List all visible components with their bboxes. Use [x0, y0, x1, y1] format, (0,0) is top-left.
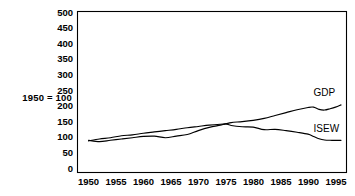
y-tick-label: 400	[57, 38, 73, 49]
x-tick-label: 1995	[325, 176, 347, 187]
series-label-gdp: GDP	[314, 87, 336, 98]
y-tick-label: 250	[57, 85, 73, 96]
y-tick-label: 450	[57, 22, 73, 33]
x-tick-label: 1980	[243, 176, 264, 187]
y-tick-label: 100	[57, 131, 73, 142]
x-tick-label: 1985	[270, 176, 292, 187]
y-tick-label: 200	[57, 100, 73, 111]
x-tick-label: 1990	[298, 176, 319, 187]
plot-area-border	[78, 12, 347, 173]
x-axis-tick-labels: 1950 1955 1960 1965 1970 1975 1980 1985 …	[78, 176, 347, 187]
x-tick-label: 1970	[188, 176, 209, 187]
x-tick-label: 1975	[215, 176, 237, 187]
y-tick-label: 500	[57, 7, 73, 18]
y-tick-label: 300	[57, 69, 73, 80]
x-tick-label: 1950	[78, 176, 99, 187]
y-axis-tick-labels: 500 450 400 350 300 250 200 150 100 50 0	[57, 7, 73, 174]
line-chart: 500 450 400 350 300 250 200 150 100 50 0…	[0, 0, 355, 196]
x-tick-label: 1965	[160, 176, 182, 187]
y-tick-label: 150	[57, 116, 73, 127]
chart-figure: 1950 = 100 500 450 400 350 300 250 200 1…	[0, 0, 355, 196]
series-label-isew: ISEW	[314, 123, 340, 134]
y-tick-label: 50	[62, 147, 73, 158]
x-tick-label: 1960	[133, 176, 154, 187]
y-tick-label: 350	[57, 53, 73, 64]
y-tick-label: 0	[68, 163, 73, 174]
x-tick-label: 1955	[105, 176, 127, 187]
